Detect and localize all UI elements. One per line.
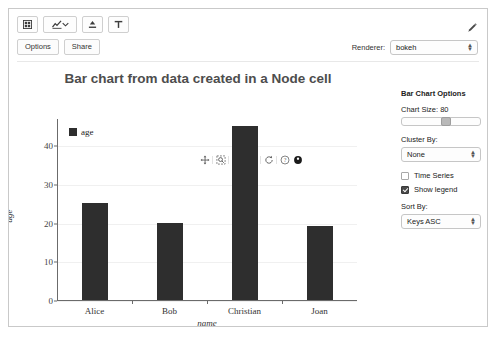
options-panel-title: Bar Chart Options	[401, 89, 483, 98]
cluster-by-select[interactable]: None ▲▼	[401, 147, 481, 162]
action-buttons: Options Share	[17, 39, 100, 55]
x-axis-title: name	[57, 318, 357, 327]
time-series-row[interactable]: Time Series	[401, 171, 483, 180]
show-legend-checkbox[interactable]	[401, 186, 409, 194]
x-tick	[132, 301, 133, 304]
y-axis-title: age	[8, 209, 14, 222]
show-legend-row[interactable]: Show legend	[401, 185, 483, 194]
bar-christian[interactable]	[232, 126, 258, 300]
renderer-select[interactable]: bokeh ▲▼	[390, 40, 478, 55]
chart-title: Bar chart from data created in a Node ce…	[9, 71, 387, 86]
plot-area[interactable]: age 0 10 20 30 40	[31, 113, 379, 318]
renderer-control: Renderer: bokeh ▲▼	[352, 40, 478, 55]
cluster-by-label: Cluster By:	[401, 135, 483, 144]
select-caret-icon: ▲▼	[467, 43, 473, 53]
gridline	[57, 146, 357, 147]
chart-icon-button[interactable]	[43, 16, 77, 33]
renderer-label: Renderer:	[352, 43, 385, 52]
table-icon	[23, 20, 32, 29]
bar-joan[interactable]	[307, 226, 333, 300]
chart-size-slider[interactable]	[401, 117, 481, 126]
select-caret-icon: ▲▼	[470, 150, 476, 160]
select-caret-icon: ▲▼	[470, 217, 476, 227]
view-toolbar	[17, 16, 129, 33]
line-chart-icon	[52, 20, 62, 29]
bar-chart-options-panel: Bar Chart Options Chart Size: 80 Cluster…	[401, 89, 483, 238]
x-tick	[282, 301, 283, 304]
sort-by-label: Sort By:	[401, 202, 483, 211]
table-icon-button[interactable]	[17, 16, 38, 33]
notebook-output-panel: Options Share Renderer: bokeh ▲▼ Bar cha…	[8, 8, 488, 327]
gridline	[57, 185, 357, 186]
toolbar-divider	[17, 61, 479, 62]
download-icon	[88, 20, 97, 29]
sort-by-select[interactable]: Keys ASC ▲▼	[401, 214, 481, 229]
x-axis-label-1: Bob	[162, 306, 177, 316]
filter-icon-button[interactable]	[108, 16, 129, 33]
plot-frame: 0 10 20 30 40 Alice Bob Christian Joan n…	[57, 119, 357, 301]
chart-legend[interactable]: age	[65, 125, 98, 139]
chart-size-label: Chart Size: 80	[401, 105, 483, 114]
legend-label: age	[81, 127, 94, 137]
x-axis-label-3: Joan	[311, 306, 328, 316]
chart-size-slider-thumb[interactable]	[441, 117, 451, 126]
x-tick	[207, 301, 208, 304]
time-series-label: Time Series	[414, 171, 454, 180]
bar-alice[interactable]	[82, 203, 108, 300]
x-axis-label-2: Christian	[228, 306, 261, 316]
time-series-checkbox[interactable]	[401, 172, 409, 180]
chart-panel: Bar chart from data created in a Node ce…	[9, 63, 387, 327]
cluster-by-value: None	[407, 150, 425, 159]
options-button[interactable]: Options	[17, 39, 59, 55]
download-icon-button[interactable]	[82, 16, 103, 33]
y-axis-line	[57, 119, 58, 301]
chevron-down-icon[interactable]	[62, 22, 69, 27]
sort-by-value: Keys ASC	[407, 217, 441, 226]
share-button[interactable]: Share	[64, 39, 100, 55]
bar-bob[interactable]	[157, 223, 183, 300]
pencil-icon[interactable]	[466, 20, 478, 32]
x-axis-label-0: Alice	[85, 306, 105, 316]
legend-swatch	[69, 128, 77, 136]
show-legend-label: Show legend	[414, 185, 457, 194]
renderer-select-value: bokeh	[396, 43, 416, 52]
filter-icon	[114, 20, 123, 29]
